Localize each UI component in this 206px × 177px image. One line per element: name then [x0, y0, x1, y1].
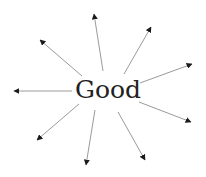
- arrow-down: [86, 110, 95, 165]
- arrow-right-down: [139, 102, 191, 122]
- word-map-diagram: Good: [0, 0, 206, 177]
- arrow-up-left: [40, 40, 82, 76]
- arrow-up-right: [124, 27, 151, 74]
- arrow-down-right: [118, 112, 145, 160]
- arrow-down-left: [37, 104, 79, 140]
- arrow-up: [94, 14, 103, 71]
- arrow-right-up: [140, 64, 192, 83]
- center-word: Good: [75, 74, 137, 106]
